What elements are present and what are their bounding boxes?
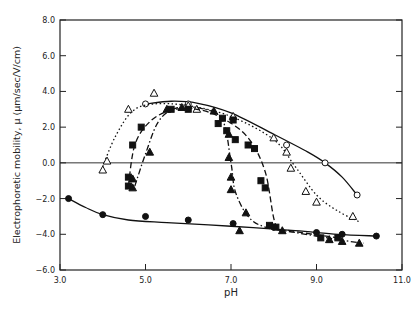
triangle-filled-marker — [236, 227, 244, 234]
y-tick-label: 8.0 — [42, 16, 55, 25]
circle-filled-marker — [339, 231, 345, 237]
x-tick-label: 9.0 — [310, 276, 323, 285]
square-filled-marker — [130, 142, 136, 148]
chart: 3.05.07.09.011.0 8.06.04.02.00.0−2.0−4.0… — [0, 0, 420, 309]
y-tick-label: 2.0 — [42, 123, 55, 132]
circle-filled-marker — [185, 217, 191, 223]
x-axis-label: pH — [224, 287, 238, 298]
series-filled-circles — [66, 196, 380, 240]
circle-open-marker — [143, 101, 149, 107]
triangle-open-marker — [103, 157, 111, 164]
circle-filled-marker — [100, 212, 106, 218]
series-filled-triangles — [129, 104, 364, 247]
y-tick-label: 6.0 — [42, 52, 55, 61]
series-line — [69, 199, 377, 237]
x-tick-label: 3.0 — [54, 276, 67, 285]
circle-filled-marker — [271, 224, 277, 230]
circle-open-marker — [354, 192, 360, 198]
circle-open-marker — [322, 160, 328, 166]
y-tick-label: −2.0 — [36, 195, 55, 204]
y-axis-label: Electrophoretic mobility, μ (μm/sec/V/cm… — [11, 46, 22, 244]
y-tick-label: −6.0 — [36, 266, 55, 275]
x-tick-label: 7.0 — [225, 276, 238, 285]
x-axis: 3.05.07.09.011.0 — [54, 264, 411, 285]
triangle-filled-marker — [225, 154, 233, 161]
square-filled-marker — [252, 146, 258, 152]
series-line — [128, 108, 337, 237]
triangle-open-marker — [287, 164, 295, 171]
circle-filled-marker — [143, 213, 149, 219]
triangle-open-marker — [302, 187, 310, 194]
data-series — [66, 89, 380, 246]
square-filled-marker — [258, 178, 264, 184]
plot-frame — [60, 20, 402, 270]
triangle-open-marker — [150, 89, 158, 96]
square-filled-marker — [262, 185, 268, 191]
x-tick-label: 5.0 — [139, 276, 152, 285]
triangle-open-marker — [99, 166, 107, 173]
square-filled-marker — [245, 142, 251, 148]
square-filled-marker — [138, 124, 144, 130]
triangle-open-marker — [125, 105, 133, 112]
triangle-filled-marker — [227, 173, 235, 180]
y-axis: 8.06.04.02.00.0−2.0−4.0−6.0 — [36, 16, 402, 275]
triangle-open-marker — [283, 148, 291, 155]
y-tick-label: 4.0 — [42, 87, 55, 96]
triangle-open-marker — [313, 198, 321, 205]
y-tick-label: 0.0 — [42, 159, 55, 168]
x-tick-label: 11.0 — [393, 276, 411, 285]
y-tick-label: −4.0 — [36, 230, 55, 239]
circle-filled-marker — [66, 196, 72, 202]
square-filled-marker — [230, 117, 236, 123]
triangle-open-marker — [270, 134, 278, 141]
circle-filled-marker — [373, 233, 379, 239]
circle-filled-marker — [230, 221, 236, 227]
triangle-open-marker — [349, 212, 357, 219]
circle-filled-marker — [314, 230, 320, 236]
